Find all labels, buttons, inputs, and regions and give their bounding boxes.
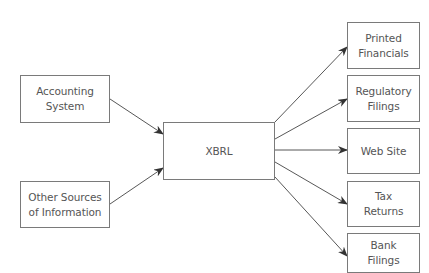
- node-accounting-system: Accounting System: [20, 75, 110, 123]
- node-printed-financials: Printed Financials: [347, 22, 420, 69]
- node-label: Accounting System: [36, 84, 94, 114]
- arrow-xbrl-to-bank: [275, 177, 347, 256]
- node-web-site: Web Site: [347, 128, 420, 174]
- node-label: XBRL: [205, 144, 232, 159]
- node-regulatory-filings: Regulatory Filings: [347, 75, 420, 122]
- node-label: Other Sources of Information: [28, 190, 101, 220]
- node-bank-filings: Bank Filings: [347, 233, 420, 273]
- node-other-sources: Other Sources of Information: [20, 181, 110, 228]
- arrow-other-to-xbrl: [110, 168, 163, 204]
- node-tax-returns: Tax Returns: [347, 181, 420, 227]
- node-label: Web Site: [361, 144, 407, 159]
- arrow-xbrl-to-regulatory: [275, 99, 347, 139]
- arrow-accounting-to-xbrl: [110, 99, 163, 134]
- node-label: Printed Financials: [358, 31, 408, 61]
- arrow-xbrl-to-tax: [275, 162, 347, 204]
- node-label: Bank Filings: [367, 238, 399, 268]
- node-label: Regulatory Filings: [355, 84, 411, 114]
- node-label: Tax Returns: [364, 189, 404, 219]
- node-xbrl: XBRL: [163, 122, 275, 180]
- arrow-xbrl-to-printed: [275, 47, 347, 122]
